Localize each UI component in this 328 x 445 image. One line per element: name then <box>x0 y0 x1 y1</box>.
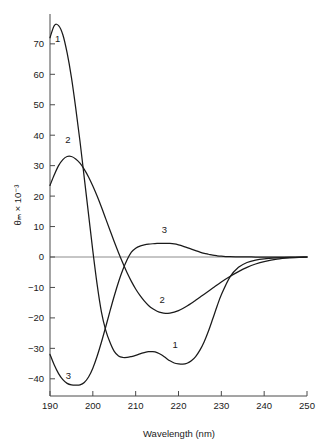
y-tick-label: −10 <box>28 282 44 293</box>
curve-label-1: 1 <box>172 339 177 350</box>
chart-background <box>0 0 328 445</box>
curve-label-3: 3 <box>162 224 167 235</box>
y-axis-title: θₘ × 10⁻³ <box>12 185 23 226</box>
x-tick-label: 250 <box>299 400 315 411</box>
x-tick-label: 220 <box>171 400 187 411</box>
x-tick-label: 210 <box>128 400 144 411</box>
x-tick-label: 240 <box>256 400 272 411</box>
x-tick-label: 190 <box>42 400 58 411</box>
curve-label-2: 2 <box>65 134 70 145</box>
x-tick-label: 230 <box>213 400 229 411</box>
y-tick-label: 10 <box>33 221 44 232</box>
y-tick-label: −30 <box>28 343 44 354</box>
y-tick-label: −20 <box>28 312 44 323</box>
y-tick-label: 20 <box>33 191 44 202</box>
y-tick-label: 30 <box>33 160 44 171</box>
y-tick-label: −40 <box>28 373 44 384</box>
y-axis-title-text: θₘ × 10⁻³ <box>12 185 23 226</box>
y-tick-label: 0 <box>39 251 44 262</box>
y-tick-label: 70 <box>33 38 44 49</box>
x-tick-label: 200 <box>85 400 101 411</box>
y-tick-label: 50 <box>33 99 44 110</box>
x-axis-title: Wavelength (nm) <box>143 428 215 439</box>
curve-label-1: 1 <box>55 33 60 44</box>
chart-canvas: 190200210220230240250 −40−30−20−10010203… <box>0 0 328 445</box>
y-tick-label: 60 <box>33 69 44 80</box>
curve-label-3: 3 <box>66 370 71 381</box>
y-tick-label: 40 <box>33 130 44 141</box>
curve-label-2: 2 <box>160 294 165 305</box>
cd-spectra-figure: 190200210220230240250 −40−30−20−10010203… <box>0 0 328 445</box>
